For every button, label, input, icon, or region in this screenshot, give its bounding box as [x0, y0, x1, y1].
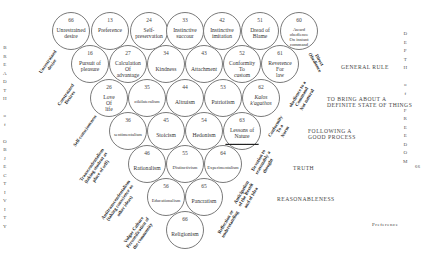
circle-42-instinctive-imitation: 42Instinctive imitation — [203, 12, 241, 50]
label-preference: Preference — [372, 222, 398, 228]
circle-61-reverence-for-law: 61Reverence For law — [261, 45, 299, 83]
circle-66-religionism: 66Religionism — [166, 211, 204, 249]
label-unrestrained-desire: Unrestrained desire — [35, 46, 64, 82]
label-reasonableness: REASONABLENESS — [277, 196, 335, 202]
axis-letter: D — [403, 30, 407, 39]
axis-letter: H — [3, 95, 7, 104]
label-definite-state: TO BRING ABOUT A DEFINITE STATE OF THING… — [327, 96, 412, 108]
circle-55-distinctivism: 55Distinctivism — [166, 145, 204, 183]
axis-letter: O — [3, 138, 7, 147]
circle-65-pancratism: 65Pancratism — [185, 178, 223, 216]
label-conformity-to-norm: Conformity To a Norm — [266, 112, 295, 146]
axis-letter: H — [403, 64, 407, 73]
circle-53-patriotism: 53Patriotism — [204, 79, 242, 117]
axis-letter: M — [403, 158, 407, 167]
label-self-consciousness: Self-consciousness — [69, 109, 102, 153]
axis-letter: T — [3, 87, 6, 96]
circle-51-dread-of-blame: 51Dread of Blame — [241, 12, 279, 50]
label-truth: TRUTH — [293, 165, 314, 171]
axis-letter: o — [404, 81, 407, 90]
axis-letter: T — [3, 180, 6, 189]
circle-16-pursuit-of-pleasure: 16Pursuit of pleasure — [71, 45, 109, 83]
label-reflection: Reflection or understanding — [214, 205, 241, 241]
axis-letter — [4, 129, 5, 138]
circle-64-experimentalism: 64Experimentalism — [204, 145, 242, 183]
axis-letter: A — [3, 70, 7, 79]
axis-letter: f — [4, 121, 6, 130]
label-direct-obedience: Direct Obedience — [305, 46, 329, 77]
axis-letter: C — [3, 172, 6, 181]
axis-letter: R — [3, 53, 6, 62]
circle-45-stoicism: 45Stoicism — [147, 112, 185, 150]
circle-62-kalos-kagathos: 62Kalos k'agathos — [242, 79, 280, 117]
circle-13-preference: 13Preference — [91, 12, 129, 50]
circle-52-conformity-to-custom: 52Conformity To custom — [223, 45, 261, 83]
label-transcendentalism: Transcendentalism (taking student as pla… — [75, 142, 118, 194]
circle-43-attachment: 43Attachment — [185, 45, 223, 83]
axis-letter: J — [4, 155, 6, 164]
label-vulgar-culture: Vulgar Culture Personification of the co… — [117, 207, 160, 259]
axis-letter: o — [4, 112, 7, 121]
circle-36-sentimentalism: 36sentimentalism — [109, 112, 147, 150]
axis-letter — [4, 104, 5, 113]
axis-letter: D — [403, 141, 407, 150]
axis-letter: E — [404, 124, 407, 133]
axis-letter: T — [3, 214, 6, 223]
left-axis-label: BREADTH of OBJECTIVITY — [3, 44, 7, 231]
axis-letter — [405, 73, 406, 82]
axis-letter: R — [404, 115, 407, 124]
page-number: 66 — [415, 165, 421, 170]
axis-letter: E — [404, 132, 407, 141]
circle-66-unrestrained-desire: 66Unrestrained desire — [52, 12, 90, 50]
axis-letter: T — [404, 56, 407, 65]
axis-letter: I — [4, 206, 6, 215]
axis-letter: Y — [3, 223, 7, 232]
axis-letter: P — [404, 47, 407, 56]
label-good-process: FOLLOWING A GOOD PROCESS — [308, 128, 356, 140]
label-constrained-desires: Constrained Desires — [53, 79, 82, 115]
axis-letter: E — [3, 163, 6, 172]
circle-60-award-obedience: 60Award obedience On instant command — [280, 12, 318, 50]
axis-letter: O — [403, 149, 407, 158]
label-devotion-to-reasonably: Devotion to reasonably a thought — [248, 144, 279, 181]
label-general-rule: GENERAL RULE — [341, 64, 389, 70]
axis-letter: I — [4, 189, 6, 198]
circle-35-oikilateralism: 35oikilateralism — [128, 79, 166, 117]
circle-27-calculation-of-advantage: 27Calculation Of advantage — [109, 45, 147, 83]
circle-63-lessons-of-nature: 63Lessons of Nature___________________ — [223, 112, 261, 150]
axis-letter: V — [3, 197, 7, 206]
label-obedience-to-command: obedience to a Command Not natural — [286, 77, 318, 116]
circle-34-kindness: 34Kindness — [147, 45, 185, 83]
circle-44-altruism: 44Altruism — [166, 79, 204, 117]
axis-letter: E — [3, 61, 6, 70]
axis-letter: B — [3, 44, 6, 53]
circle-56-educationalism: 56Educationalism — [147, 178, 185, 216]
circle-46-rationalism: 46Rationalism — [128, 145, 166, 183]
circle-33-instinctive-succour: 33Instinctive succour — [166, 12, 204, 50]
axis-letter: B — [3, 146, 6, 155]
circle-54-hedonism: 54Hedonism — [185, 112, 223, 150]
axis-letter: D — [3, 78, 7, 87]
axis-letter: E — [404, 39, 407, 48]
